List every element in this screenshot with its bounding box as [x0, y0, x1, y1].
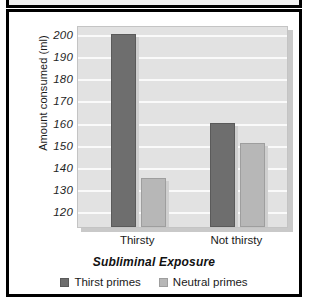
- y-axis-tick-label: 200: [27, 29, 73, 41]
- legend-label: Thirst primes: [74, 276, 140, 288]
- x-axis-tick-label: Thirsty: [120, 234, 155, 246]
- x-axis-title: Subliminal Exposure: [9, 255, 299, 269]
- y-axis-tick-label: 170: [27, 95, 73, 107]
- legend-entry: Thirst primes: [60, 276, 140, 288]
- legend-swatch-icon: [159, 278, 168, 287]
- legend-entry: Neutral primes: [159, 276, 248, 288]
- clipped-top-panel: [6, 0, 302, 8]
- x-axis-tick-labels: ThirstyNot thirsty: [77, 234, 288, 252]
- gridline: [78, 79, 287, 81]
- y-axis-tick-label: 180: [27, 73, 73, 85]
- chart-legend: Thirst primesNeutral primes: [9, 276, 299, 288]
- y-axis-tick-label: 130: [27, 184, 73, 196]
- y-axis-tick-label: 150: [27, 140, 73, 152]
- gridline: [78, 124, 287, 126]
- y-axis-tick-label: 190: [27, 51, 73, 63]
- y-axis-tick-label: 120: [27, 206, 73, 218]
- y-axis-tick-label: 160: [27, 118, 73, 130]
- bar: [240, 143, 265, 227]
- y-axis-tick-labels: 200190180170160150140130120: [23, 26, 73, 228]
- gridline: [78, 57, 287, 59]
- bar: [210, 123, 235, 227]
- legend-label: Neutral primes: [173, 276, 248, 288]
- plot-area: [77, 26, 288, 228]
- legend-swatch-icon: [60, 278, 69, 287]
- x-axis-tick-label: Not thirsty: [210, 234, 262, 246]
- y-axis-tick-label: 140: [27, 162, 73, 174]
- bar: [111, 34, 136, 227]
- figure-frame: Amount consumed (ml) 2001901801701601501…: [6, 9, 302, 297]
- bar: [141, 178, 166, 227]
- gridline: [78, 101, 287, 103]
- gridline: [78, 35, 287, 37]
